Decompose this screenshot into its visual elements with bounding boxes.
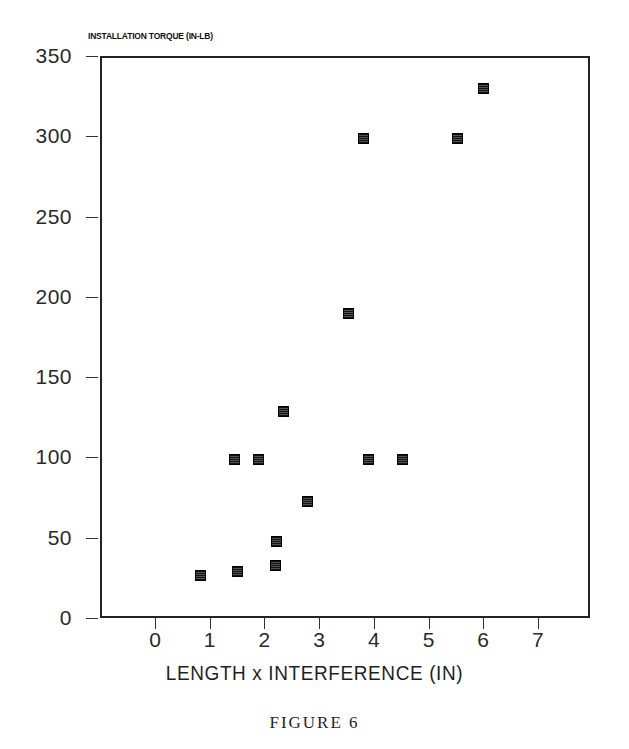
x-tick-mark bbox=[429, 618, 430, 629]
x-axis-ticks: 01234567 bbox=[0, 0, 629, 749]
x-tick-label: 0 bbox=[140, 628, 170, 652]
x-axis-title: LENGTH x INTERFERENCE (IN) bbox=[0, 662, 629, 686]
x-tick-label: 5 bbox=[414, 628, 444, 652]
x-tick-label: 4 bbox=[359, 628, 389, 652]
figure-caption: FIGURE 6 bbox=[0, 713, 629, 733]
x-tick-mark bbox=[155, 618, 156, 629]
x-tick-mark bbox=[210, 618, 211, 629]
x-tick-mark bbox=[319, 618, 320, 629]
x-tick-mark bbox=[538, 618, 539, 629]
figure-container: INSTALLATION TORQUE (IN-LB) 050100150200… bbox=[0, 0, 629, 749]
x-tick-label: 1 bbox=[195, 628, 225, 652]
x-tick-label: 2 bbox=[249, 628, 279, 652]
x-tick-label: 7 bbox=[523, 628, 553, 652]
x-tick-mark bbox=[374, 618, 375, 629]
x-tick-label: 3 bbox=[304, 628, 334, 652]
x-tick-mark bbox=[264, 618, 265, 629]
x-tick-label: 6 bbox=[468, 628, 498, 652]
x-tick-mark bbox=[483, 618, 484, 629]
